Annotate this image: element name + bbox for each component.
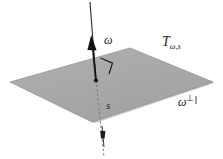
omega-label: ω: [104, 34, 112, 46]
plane-label-subscript: ω,s: [170, 42, 181, 51]
intersection-point-dot: [94, 78, 98, 82]
line-s-lower-marker-icon: [100, 131, 105, 139]
geometry-figure: ω s Tω,s ω⊥: [0, 0, 223, 159]
plane-label-base: T: [162, 34, 170, 49]
line-s-label: s: [106, 100, 110, 111]
figure-canvas: [0, 0, 223, 159]
plane-surface: [10, 48, 213, 122]
omega-perp-label: ω⊥: [178, 94, 194, 108]
plane-label: Tω,s: [162, 35, 181, 51]
omega-perp-superscript: ⊥: [186, 93, 194, 103]
omega-arrowhead-icon: [87, 35, 96, 51]
